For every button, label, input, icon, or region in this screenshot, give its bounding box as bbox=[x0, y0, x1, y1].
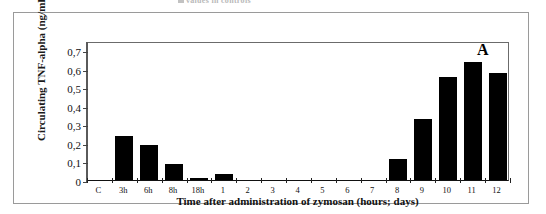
x-tick-label: 5 bbox=[320, 185, 324, 195]
x-tick-label: 6 bbox=[345, 185, 349, 195]
x-tick-label: 11 bbox=[468, 185, 476, 195]
x-tick-mark bbox=[137, 178, 138, 183]
bar-slot bbox=[112, 43, 137, 180]
bar-slot bbox=[361, 43, 386, 180]
bar bbox=[190, 178, 208, 180]
legend-swatch-icon bbox=[178, 0, 184, 3]
bar-slot bbox=[261, 43, 286, 180]
x-axis-title: Time after administration of zymosan (ho… bbox=[86, 195, 509, 207]
x-tick-mark bbox=[286, 178, 287, 183]
x-tick-mark bbox=[87, 178, 88, 183]
bar bbox=[439, 77, 457, 180]
x-tick-mark bbox=[460, 178, 461, 183]
bar-slot bbox=[485, 43, 510, 180]
x-tick-mark bbox=[211, 178, 212, 183]
x-tick-mark bbox=[410, 178, 411, 183]
bar bbox=[215, 174, 233, 180]
figure-box: Circulating TNF-alpha (ng/mL) 00,10,20,3… bbox=[13, 12, 529, 204]
bar-slot bbox=[87, 43, 112, 180]
caption-fragment-text: values in controls bbox=[186, 0, 251, 5]
bar-slot bbox=[286, 43, 311, 180]
x-tick-mark bbox=[361, 178, 362, 183]
x-tick-label: 2 bbox=[246, 185, 250, 195]
bar bbox=[489, 73, 507, 180]
bar-series bbox=[87, 43, 508, 180]
x-tick-mark bbox=[162, 178, 163, 183]
bar-slot bbox=[211, 43, 236, 180]
bar-slot bbox=[311, 43, 336, 180]
bar-slot bbox=[460, 43, 485, 180]
bar bbox=[464, 62, 482, 180]
x-tick-label: 6h bbox=[144, 185, 153, 195]
x-tick-mark bbox=[386, 178, 387, 183]
x-tick-label: 8h bbox=[169, 185, 178, 195]
bar-slot bbox=[162, 43, 187, 180]
bar-slot bbox=[435, 43, 460, 180]
bar bbox=[165, 164, 183, 180]
x-tick-label: 1 bbox=[221, 185, 225, 195]
bar-slot bbox=[386, 43, 411, 180]
bar-slot bbox=[336, 43, 361, 180]
panel-label: A bbox=[477, 41, 489, 59]
x-tick-label: 7 bbox=[370, 185, 374, 195]
x-tick-mark bbox=[510, 178, 511, 183]
x-tick-label: 3h bbox=[119, 185, 128, 195]
x-tick-label: 9 bbox=[420, 185, 424, 195]
bar-slot bbox=[236, 43, 261, 180]
y-axis-title: Circulating TNF-alpha (ng/mL) bbox=[35, 1, 47, 141]
bar bbox=[389, 159, 407, 180]
bar bbox=[140, 145, 158, 180]
x-tick-label: 18h bbox=[192, 185, 205, 195]
plot-area: 00,10,20,30,40,50,60,7 bbox=[86, 42, 509, 181]
x-tick-label: 4 bbox=[295, 185, 299, 195]
bar bbox=[414, 119, 432, 180]
bar-slot bbox=[187, 43, 212, 180]
x-tick-mark bbox=[187, 178, 188, 183]
bar bbox=[115, 136, 133, 180]
x-tick-mark bbox=[435, 178, 436, 183]
x-tick-mark bbox=[112, 178, 113, 183]
x-tick-mark bbox=[261, 178, 262, 183]
x-tick-mark bbox=[485, 178, 486, 183]
x-tick-label: 12 bbox=[492, 185, 501, 195]
x-tick-label: 8 bbox=[395, 185, 399, 195]
x-tick-label: 10 bbox=[443, 185, 452, 195]
bar-slot bbox=[137, 43, 162, 180]
x-tick-mark bbox=[336, 178, 337, 183]
x-tick-mark bbox=[311, 178, 312, 183]
x-tick-mark bbox=[236, 178, 237, 183]
clipped-caption-strip: values in controls bbox=[0, 0, 546, 9]
bar-slot bbox=[410, 43, 435, 180]
x-tick-label: 3 bbox=[270, 185, 274, 195]
x-tick-label: C bbox=[96, 185, 102, 195]
